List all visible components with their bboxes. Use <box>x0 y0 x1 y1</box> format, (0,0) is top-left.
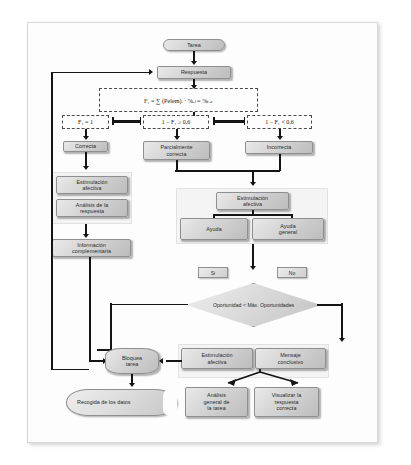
node-informacion-line2: complementaria <box>72 248 111 254</box>
arrowhead-right-group <box>250 182 256 186</box>
connector-cond-middle-right <box>213 120 245 123</box>
node-mensaje-line2: conclusivo <box>278 359 304 365</box>
condition-incorrecta: 1 − F₁ < 0,6 <box>247 115 312 129</box>
connector-cond-left-middle-tick-b <box>140 117 142 125</box>
label-no-text: No <box>289 270 295 276</box>
formula-expression: F₁ = ∑ (Pelem)ᵢ · %ₑₗ = %ₜₒₜ <box>144 97 213 104</box>
node-recogida-line2: los datos <box>109 399 131 405</box>
node-mensaje-conclusivo[interactable]: Mensaje conclusivo <box>255 348 326 369</box>
node-analisis-general-line3: la tarea <box>207 405 225 411</box>
decision-label-wrapper: Oportunidad < Máx. Oportunidades <box>213 302 294 308</box>
connector-cond-left-middle <box>112 120 141 123</box>
node-analisis-de-la-respuesta[interactable]: Análisis de la respuesta <box>56 199 128 217</box>
label-si-text: Si <box>211 270 215 276</box>
formula-box: F₁ = ∑ (Pelem)ᵢ · %ₑₗ = %ₜₒₜ <box>99 88 258 112</box>
node-ayuda-general[interactable]: Ayuda general <box>252 218 324 240</box>
node-bloquea-tarea[interactable]: Bloquea tarea <box>105 348 159 374</box>
connector-feedback-vertical <box>51 72 53 370</box>
condition-incorrecta-expression: 1 − F₁ < 0,6 <box>265 119 294 125</box>
node-incorrecta[interactable]: Incorrecta <box>245 141 313 154</box>
decision-label-line1: Oportunidad < <box>213 302 246 308</box>
node-ayuda-label: Ayuda <box>206 226 221 232</box>
condition-parcialmente-correcta: 1 − F₁ ≥ 0,6 <box>143 115 209 129</box>
node-estimulacion-der-line2: afectiva <box>243 201 262 207</box>
node-visualizar-line3: correcta <box>277 405 297 411</box>
condition-parcial-expression: 1 − F₁ ≥ 0,6 <box>162 119 191 125</box>
decision-oportunidad[interactable]: Oportunidad < Máx. Oportunidades <box>186 283 321 327</box>
node-correcta[interactable]: Correcta <box>63 141 108 152</box>
node-estimulacion-afectiva-derecha[interactable]: Estimulación afectiva <box>216 192 289 210</box>
arrowhead-incorrecta <box>277 136 283 140</box>
arrowhead-to-bloquea-tarea <box>159 358 163 364</box>
connector-estimulacion-inf-to-bloquea <box>166 360 182 362</box>
screenshot-root: Tarea Respuesta F₁ = ∑ (Pelem)ᵢ · %ₑₗ = … <box>0 0 411 465</box>
node-recogida-label-wrapper: Recogida de los datos <box>77 399 130 405</box>
connector-informacion-down <box>89 257 91 360</box>
node-recogida-de-los-datos[interactable]: Recogida de los datos <box>66 389 177 416</box>
connector-si-left <box>110 304 188 306</box>
node-informacion-complementaria[interactable]: Información complementaria <box>52 239 131 257</box>
node-parcialmente-correcta[interactable]: Parcialmente correcta <box>143 141 210 160</box>
node-respuesta-label: Respuesta <box>181 69 207 75</box>
arrowhead-tarea-respuesta <box>191 61 197 65</box>
arrowhead-correcta <box>83 136 89 140</box>
decision-label-line3: Oportunidades <box>260 302 294 308</box>
arrowhead-informacion <box>83 234 89 238</box>
label-si: Si <box>198 267 228 278</box>
node-estimulacion-afectiva-izquierda[interactable]: Estimulación afectiva <box>56 176 128 194</box>
node-tarea-label: Tarea <box>187 42 201 48</box>
node-analisis-respuesta-line2: respuesta <box>80 208 104 214</box>
node-correcta-label: Correcta <box>75 143 96 149</box>
node-ayuda[interactable]: Ayuda <box>180 218 248 240</box>
condition-correcta-expression: F₁ = 1 <box>78 119 93 125</box>
connector-no-down <box>341 303 343 340</box>
node-bloquea-line2: tarea <box>126 361 139 367</box>
node-tarea[interactable]: Tarea <box>163 39 225 51</box>
connector-cond-middle-right-tick-a <box>213 117 215 125</box>
node-estimulacion-izq-line2: afectiva <box>83 185 102 191</box>
node-respuesta[interactable]: Respuesta <box>157 66 231 79</box>
node-recogida-line1: Recogida de <box>77 399 107 405</box>
node-parcial-label-line2: correcta <box>167 151 187 157</box>
connector-fork-ayudas <box>213 214 292 216</box>
label-no: No <box>277 267 307 278</box>
condition-correcta: F₁ = 1 <box>62 115 109 129</box>
node-estimulacion-inf-line2: afectiva <box>208 359 227 365</box>
connector-feedback-top <box>51 72 150 74</box>
arrowhead-parcial <box>174 136 180 140</box>
arrowhead-correcta-estimulacion <box>83 166 89 170</box>
arrowhead-no-branch <box>339 338 345 342</box>
recogida-shape-notch <box>163 389 177 416</box>
connector-cond-left-middle-tick-a <box>112 117 114 125</box>
node-estimulacion-afectiva-inferior[interactable]: Estimulación afectiva <box>181 348 253 369</box>
connector-incorrecta-down <box>279 154 281 171</box>
connector-no-right <box>317 304 343 306</box>
connector-cond-middle-right-tick-b <box>244 117 246 125</box>
connector-si-down-to-bloquea <box>110 303 112 350</box>
node-ayuda-general-line2: general <box>279 229 297 235</box>
connector-feedback-bottom <box>51 369 89 371</box>
node-analisis-general-de-la-tarea[interactable]: Análisis general de la tarea <box>185 387 248 417</box>
arrowhead-feedback-respuesta <box>149 69 153 75</box>
arrowhead-decision <box>250 266 256 270</box>
connector-right-group-to-decision <box>252 244 254 268</box>
node-incorrecta-label: Incorrecta <box>267 144 291 150</box>
connector-merge-parcial-incorrecta <box>175 170 280 172</box>
decision-label-line2: Máx. <box>247 302 258 308</box>
arrowhead-recogida <box>129 383 135 387</box>
flowchart-canvas: Tarea Respuesta F₁ = ∑ (Pelem)ᵢ · %ₑₗ = … <box>0 0 411 465</box>
node-visualizar-respuesta-correcta[interactable]: Visualizar la respuesta correcta <box>254 387 319 417</box>
